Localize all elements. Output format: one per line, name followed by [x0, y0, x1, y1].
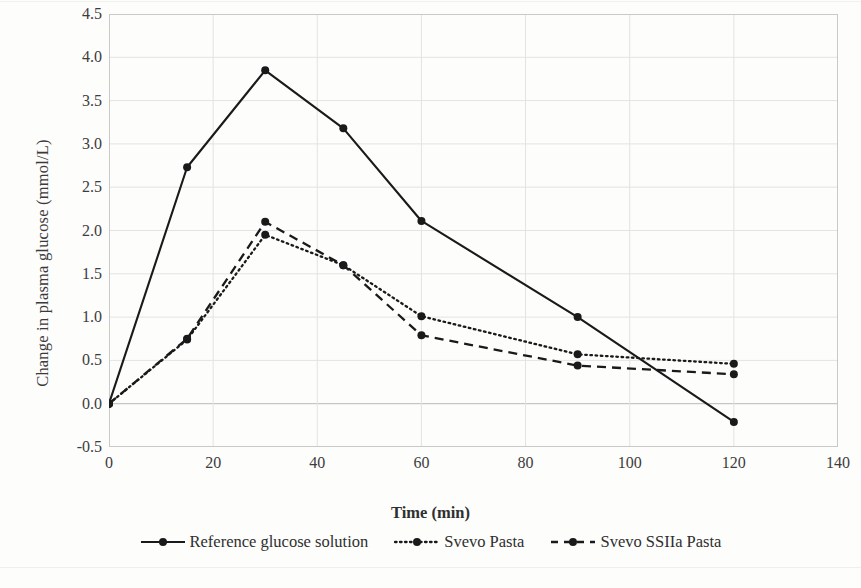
data-point — [261, 218, 269, 226]
y-tick-label: 4.0 — [58, 49, 102, 65]
scan-artifact-top — [0, 1, 861, 2]
y-tick-label: 0.0 — [58, 396, 102, 412]
legend-swatch-dashed-icon — [550, 535, 596, 549]
y-tick-label: 3.0 — [58, 136, 102, 152]
x-tick-label: 60 — [391, 455, 451, 471]
data-point — [574, 313, 582, 321]
data-point — [183, 335, 191, 343]
x-tick-label: 100 — [600, 455, 660, 471]
x-axis-title: Time (min) — [0, 503, 861, 523]
chart-page: Change in plasma glucose (mmol/L) -0.50.… — [0, 0, 861, 588]
y-tick-label: 2.0 — [58, 223, 102, 239]
y-tick-label: 4.5 — [58, 6, 102, 22]
x-tick-label: 20 — [183, 455, 243, 471]
x-tick-label: 0 — [79, 455, 139, 471]
legend-label: Svevo Pasta — [444, 534, 524, 551]
data-point — [574, 350, 582, 358]
legend-item[interactable]: Reference glucose solution — [140, 534, 369, 551]
data-point — [183, 163, 191, 171]
y-tick-label: 3.5 — [58, 93, 102, 109]
legend-item[interactable]: Svevo Pasta — [394, 534, 524, 551]
x-tick-label: 80 — [496, 455, 556, 471]
data-point — [574, 362, 582, 370]
data-point — [261, 66, 269, 74]
plot-area — [109, 14, 838, 447]
legend-swatch-solid-icon — [140, 535, 186, 549]
data-point — [730, 418, 738, 426]
x-tick-label: 40 — [287, 455, 347, 471]
x-tick-label: 140 — [808, 455, 861, 471]
data-point — [339, 261, 347, 269]
data-point — [417, 331, 425, 339]
scan-artifact-bottom — [0, 567, 861, 568]
legend-label: Svevo SSIIa Pasta — [600, 534, 721, 551]
y-tick-label: -0.5 — [58, 439, 102, 455]
chart-legend: Reference glucose solutionSvevo PastaSve… — [0, 534, 861, 551]
legend-swatch-dotted-icon — [394, 535, 440, 549]
y-tick-label: 2.5 — [58, 179, 102, 195]
legend-item[interactable]: Svevo SSIIa Pasta — [550, 534, 721, 551]
x-axis-tick-labels: 020406080100120140 — [0, 455, 861, 479]
y-axis-tick-labels: -0.50.00.51.01.52.02.53.03.54.04.5 — [46, 0, 102, 588]
x-tick-label: 120 — [704, 455, 764, 471]
data-point — [417, 312, 425, 320]
data-point — [339, 124, 347, 132]
data-point — [730, 360, 738, 368]
data-point — [730, 370, 738, 378]
data-point — [417, 217, 425, 225]
y-tick-label: 0.5 — [58, 352, 102, 368]
y-tick-label: 1.5 — [58, 266, 102, 282]
chart-svg — [109, 14, 838, 447]
legend-label: Reference glucose solution — [190, 534, 369, 551]
y-tick-label: 1.0 — [58, 309, 102, 325]
data-point — [261, 231, 269, 239]
